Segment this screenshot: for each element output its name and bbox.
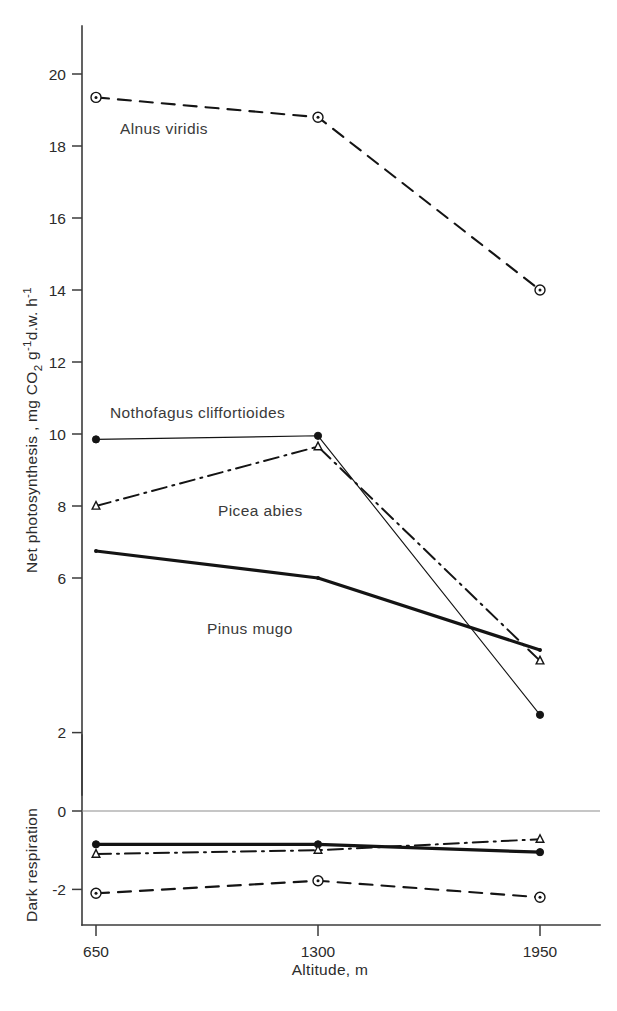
series-pinus-mugo-pt2-dot-marker bbox=[538, 648, 542, 652]
y-axis-title-bottom: Dark respiration bbox=[23, 808, 40, 922]
series-label-pinus-mugo: Pinus mugo bbox=[207, 620, 293, 637]
ytick-label-top-14: 14 bbox=[49, 282, 67, 299]
top-panel-yticks: 68101214161820 bbox=[49, 66, 82, 587]
series-nothofagus-cliffortioides-pt1-filled-circle-marker bbox=[314, 432, 321, 439]
series-alnus-viridis-pt2-circle-center-dot bbox=[539, 289, 542, 292]
series-pinus-mugo-pt1-dot-marker bbox=[316, 576, 320, 580]
series-alnus-viridis-pt1-circle-center-dot bbox=[317, 879, 320, 882]
xtick-label-1950: 1950 bbox=[523, 943, 558, 960]
xtick-label-650: 650 bbox=[83, 943, 109, 960]
series-nothofagus-cliffortioides-series-top bbox=[92, 432, 543, 718]
series-alnus-viridis-pt2-circle-center-dot bbox=[539, 896, 542, 899]
series-line-pinus-mugo bbox=[96, 551, 540, 650]
ytick-label-top-12: 12 bbox=[49, 354, 66, 371]
series-pinus-mugo-pt0-dot-marker bbox=[94, 549, 98, 553]
series-pinus-mugo-pt1-dot-marker bbox=[316, 842, 320, 846]
series-line-nothofagus-cliffortioides bbox=[96, 436, 540, 715]
figure-root: 68101214161820 20-2 65013001950 Alnus vi… bbox=[0, 0, 617, 1011]
ytick-label-top-8: 8 bbox=[57, 498, 66, 515]
series-alnus-viridis-pt1-circle-center-dot bbox=[317, 116, 320, 119]
series-picea-abies-pt2-triangle-marker bbox=[536, 835, 544, 843]
series-alnus-viridis-pt0-circle-center-dot bbox=[95, 96, 98, 99]
ytick-label-bottom-0: 0 bbox=[57, 803, 66, 820]
series-picea-abies-pt0-triangle-marker bbox=[92, 502, 100, 510]
series-pinus-mugo-pt2-dot-marker bbox=[538, 850, 542, 854]
series-nothofagus-cliffortioides-pt0-filled-circle-marker bbox=[92, 436, 99, 443]
series-alnus-viridis-pt0-circle-center-dot bbox=[95, 892, 98, 895]
ytick-label-bottom-2: 2 bbox=[57, 724, 66, 741]
bottom-panel-series bbox=[91, 835, 545, 902]
ytick-label-top-20: 20 bbox=[49, 66, 67, 83]
series-pinus-mugo-series-top bbox=[94, 549, 542, 652]
ytick-label-bottom--2: -2 bbox=[52, 881, 66, 898]
ytick-label-top-10: 10 bbox=[49, 426, 67, 443]
ytick-label-top-6: 6 bbox=[57, 570, 66, 587]
series-label-alnus-viridis: Alnus viridis bbox=[120, 120, 208, 137]
series-alnus-viridis-series-bottom bbox=[91, 876, 545, 902]
photosynthesis-altitude-chart: 68101214161820 20-2 65013001950 Alnus vi… bbox=[0, 0, 617, 1011]
ylabel-sub-2: 2 bbox=[32, 365, 44, 372]
ytick-label-top-18: 18 bbox=[49, 138, 66, 155]
series-nothofagus-cliffortioides-pt2-filled-circle-marker bbox=[536, 711, 543, 718]
series-pinus-mugo-pt0-dot-marker bbox=[94, 842, 98, 846]
series-label-nothofagus-cliffortioides: Nothofagus cliffortioides bbox=[110, 404, 285, 421]
x-axis-title: Altitude, m bbox=[292, 961, 369, 978]
bottom-panel-yticks: 20-2 bbox=[52, 724, 82, 898]
ytick-label-top-16: 16 bbox=[49, 210, 66, 227]
x-axis-ticks: 65013001950 bbox=[83, 925, 558, 960]
ylabel-text-main: Net photosynthesis , mg CO bbox=[23, 371, 40, 573]
y-axis-title-top: Net photosynthesis , mg CO2 g-1d.w. h-1 bbox=[21, 287, 44, 573]
series-picea-abies-pt1-triangle-marker bbox=[314, 442, 322, 450]
xtick-label-1300: 1300 bbox=[301, 943, 336, 960]
series-picea-abies-pt0-triangle-marker bbox=[92, 850, 100, 858]
series-label-picea-abies: Picea abies bbox=[218, 502, 303, 519]
